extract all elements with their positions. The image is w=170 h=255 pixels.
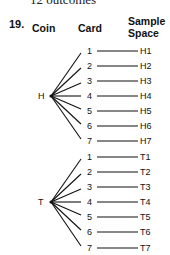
outcome-label: T6 bbox=[140, 227, 151, 237]
outcome-label: H6 bbox=[140, 121, 152, 131]
card-label: 5 bbox=[87, 212, 92, 222]
card-label: 1 bbox=[87, 46, 92, 56]
card-label: 5 bbox=[87, 106, 92, 116]
outcome-label: H3 bbox=[140, 76, 152, 86]
branch-line bbox=[51, 68, 81, 96]
card-label: 6 bbox=[87, 227, 92, 237]
outcome-label: H7 bbox=[140, 136, 152, 146]
outcome-label: H2 bbox=[140, 61, 152, 71]
outcome-label: H5 bbox=[140, 106, 152, 116]
node-dot bbox=[49, 94, 52, 97]
branch-line bbox=[51, 202, 81, 230]
outcome-label: T3 bbox=[140, 182, 151, 192]
coin-node-t: T bbox=[38, 197, 44, 207]
outcome-label: T5 bbox=[140, 212, 151, 222]
node-dot bbox=[49, 200, 52, 203]
outcome-label: T4 bbox=[140, 197, 151, 207]
branch-line bbox=[51, 174, 81, 202]
card-label: 4 bbox=[87, 197, 92, 207]
card-label: 3 bbox=[87, 182, 92, 192]
outcome-label: T7 bbox=[140, 243, 151, 253]
outcome-label: H4 bbox=[140, 91, 152, 101]
card-label: 2 bbox=[87, 61, 92, 71]
card-label: 7 bbox=[87, 136, 92, 146]
card-label: 7 bbox=[87, 243, 92, 253]
card-label: 4 bbox=[87, 91, 92, 101]
branch-line bbox=[51, 96, 81, 124]
outcome-label: H1 bbox=[140, 46, 152, 56]
outcome-label: T1 bbox=[140, 152, 151, 162]
card-label: 2 bbox=[87, 167, 92, 177]
outcome-label: T2 bbox=[140, 167, 151, 177]
coin-node-h: H bbox=[38, 91, 45, 101]
card-label: 6 bbox=[87, 121, 92, 131]
card-label: 3 bbox=[87, 76, 92, 86]
card-label: 1 bbox=[87, 152, 92, 162]
